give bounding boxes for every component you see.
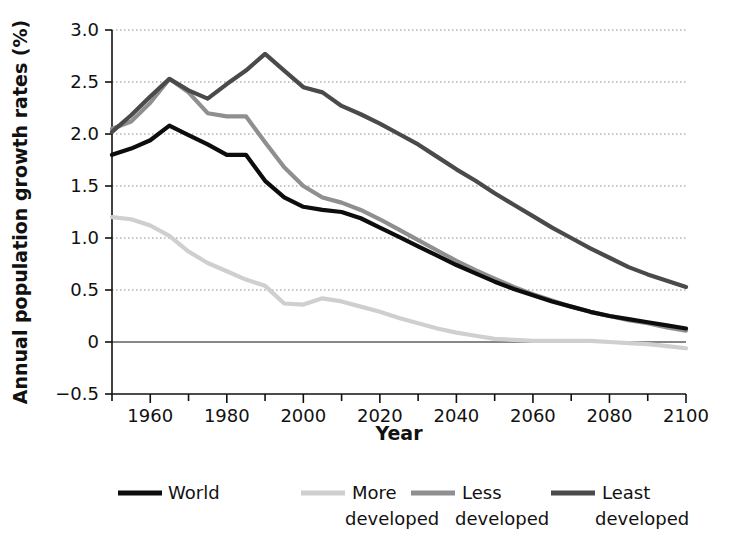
legend-label-1-line2: developed	[345, 508, 439, 529]
x-tick-label-3: 2020	[357, 405, 403, 426]
y-axis-title: Annual population growth rates (%)	[9, 20, 31, 404]
y-tick-label-1: 0	[88, 331, 99, 352]
y-tick-label-5: 2.0	[70, 123, 99, 144]
series-line-less-developed	[112, 79, 686, 331]
legend-label-3: Least	[602, 482, 650, 503]
y-tick-label-7: 3.0	[70, 19, 99, 40]
x-tick-label-4: 2040	[433, 405, 479, 426]
x-tick-label-0: 1960	[127, 405, 173, 426]
y-tick-label-3: 1.0	[70, 227, 99, 248]
x-tick-label-1: 1980	[204, 405, 250, 426]
series-line-world	[112, 126, 686, 329]
legend-label-2-line2: developed	[455, 508, 549, 529]
chart-legend: WorldMoredevelopedLessdevelopedLeastdeve…	[118, 482, 689, 529]
y-tick-marks	[105, 30, 112, 394]
x-tick-label-2: 2000	[280, 405, 326, 426]
y-tick-labels: −0.500.51.01.52.02.53.0	[55, 19, 99, 404]
chart-canvas: Annual population growth rates (%) Year …	[0, 0, 729, 548]
population-growth-chart: Annual population growth rates (%) Year …	[0, 0, 729, 548]
y-tick-label-0: −0.5	[55, 383, 99, 404]
legend-label-1: More	[352, 482, 397, 503]
data-series-group	[112, 54, 686, 348]
series-line-least-developed	[112, 54, 686, 287]
y-tick-label-4: 1.5	[70, 175, 99, 196]
legend-label-2: Less	[462, 482, 502, 503]
y-tick-label-2: 0.5	[70, 279, 99, 300]
x-tick-label-6: 2080	[587, 405, 633, 426]
y-tick-label-6: 2.5	[70, 71, 99, 92]
legend-label-0: World	[168, 482, 220, 503]
x-tick-marks	[112, 394, 686, 403]
x-tick-label-5: 2060	[510, 405, 556, 426]
x-tick-label-7: 2100	[663, 405, 709, 426]
legend-label-3-line2: developed	[595, 508, 689, 529]
